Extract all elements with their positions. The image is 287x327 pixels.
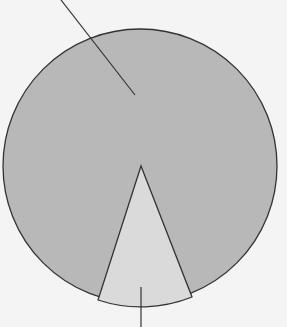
- pie-diagram: [0, 0, 287, 327]
